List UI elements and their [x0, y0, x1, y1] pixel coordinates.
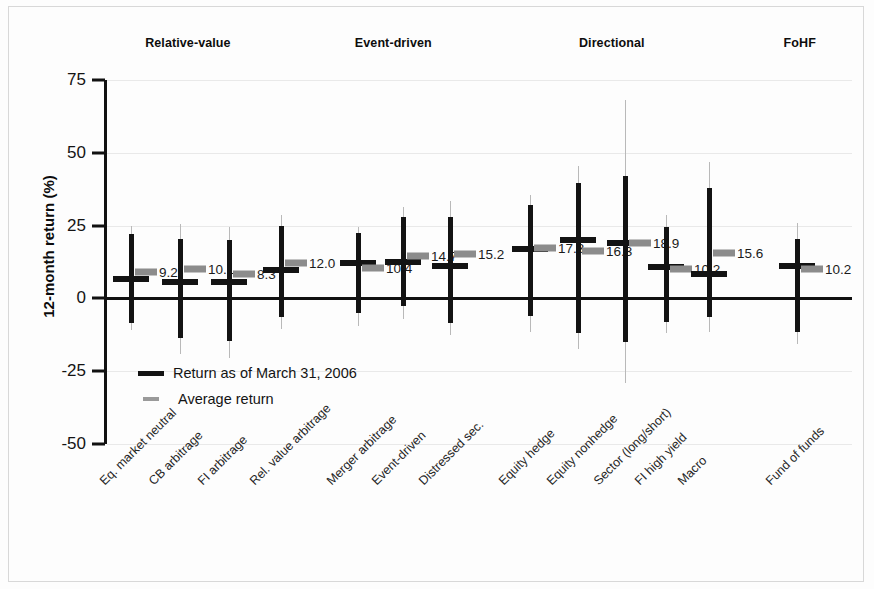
average-value-marker	[534, 245, 556, 252]
legend-swatch-return-icon	[138, 371, 164, 376]
return-value-marker	[113, 276, 149, 282]
plot-area: 9.210.18.312.010.414.715.217.316.318.910…	[0, 0, 874, 589]
return-range-line	[664, 227, 669, 322]
legend-item-average: Average return	[138, 386, 357, 412]
average-value-marker	[454, 251, 476, 258]
return-range-line	[795, 239, 800, 332]
return-value-marker	[162, 279, 198, 285]
average-value-marker	[801, 265, 823, 272]
return-value-marker	[691, 271, 727, 277]
legend-label-average: Average return	[178, 391, 274, 407]
return-value-marker	[560, 237, 596, 243]
average-value-marker	[285, 260, 307, 267]
return-range-line	[576, 183, 581, 333]
average-value-marker	[713, 249, 735, 256]
return-range-line	[178, 239, 183, 338]
return-range-line	[356, 233, 361, 313]
return-range-line	[707, 188, 712, 318]
chart-figure: Relative-valueEvent-drivenDirectionalFoH…	[0, 0, 874, 589]
average-value-label: 12.0	[309, 256, 335, 271]
return-range-line	[227, 240, 232, 340]
average-value-marker	[135, 268, 157, 275]
chart-legend: Return as of March 31, 2006 Average retu…	[138, 360, 357, 412]
average-value-label: 15.6	[737, 245, 763, 260]
average-value-marker	[629, 240, 651, 247]
return-range-line	[448, 217, 453, 323]
average-value-marker	[670, 265, 692, 272]
legend-label-return: Return as of March 31, 2006	[173, 365, 357, 381]
average-value-label: 15.2	[478, 247, 504, 262]
legend-item-return: Return as of March 31, 2006	[138, 360, 357, 386]
return-value-marker	[211, 279, 247, 285]
average-value-marker	[184, 265, 206, 272]
return-value-marker	[385, 259, 421, 265]
return-range-line	[623, 176, 628, 342]
return-value-marker	[263, 267, 299, 273]
average-value-marker	[582, 247, 604, 254]
average-value-marker	[407, 252, 429, 259]
return-range-line	[528, 205, 533, 316]
return-value-marker	[432, 263, 468, 269]
legend-swatch-average-icon	[143, 397, 159, 401]
average-value-marker	[233, 271, 255, 278]
average-value-label: 10.2	[825, 261, 851, 276]
average-value-label: 9.2	[159, 264, 178, 279]
average-value-marker	[362, 265, 384, 272]
